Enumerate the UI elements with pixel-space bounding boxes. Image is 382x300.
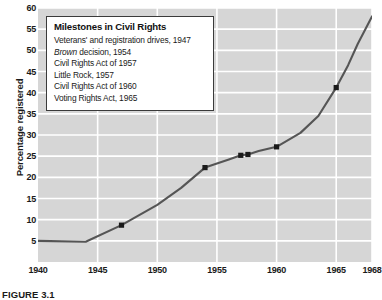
data-point-marker (274, 144, 279, 149)
legend-title: Milestones in Civil Rights (54, 21, 207, 32)
x-axis-tick-label: 1960 (267, 265, 286, 275)
milestones-legend-box: Milestones in Civil Rights Veterans' and… (46, 16, 214, 111)
legend-item: Voting Rights Act, 1965 (54, 93, 207, 105)
legend-item-italic-term: Brown (54, 47, 77, 57)
y-axis-tick-label: 60 (12, 3, 36, 13)
y-axis-tick-label: 35 (12, 109, 36, 119)
y-axis-tick-label: 55 (12, 24, 36, 34)
y-axis-tick-label: 15 (12, 194, 36, 204)
x-axis-tick-label: 1940 (28, 265, 47, 275)
data-point-marker (238, 153, 243, 158)
x-axis-tick-label: 1955 (207, 265, 226, 275)
y-axis-tick-label: 10 (12, 215, 36, 225)
y-axis-tick-label: 30 (12, 130, 36, 140)
x-axis-tick-label: 1968 (362, 265, 381, 275)
legend-item: Veterans' and registration drives, 1947 (54, 35, 207, 47)
y-axis-tick-label: 20 (12, 172, 36, 182)
y-axis-tick-labels: 51015202530354045505560 (12, 0, 36, 300)
x-axis-tick-labels: 1940194519501955196019651968 (0, 265, 382, 279)
legend-item: Civil Rights Act of 1960 (54, 81, 207, 93)
data-point-marker (245, 152, 250, 157)
x-axis-tick-label: 1950 (148, 265, 167, 275)
y-axis-tick-label: 40 (12, 88, 36, 98)
y-axis-tick-label: 25 (12, 151, 36, 161)
legend-item: Little Rock, 1957 (54, 70, 207, 82)
y-axis-tick-label: 5 (12, 236, 36, 246)
data-point-marker (334, 85, 339, 90)
figure-container: Percentage registered 510152025303540455… (0, 0, 382, 300)
x-axis-tick-label: 1945 (88, 265, 107, 275)
legend-item-list: Veterans' and registration drives, 1947B… (54, 35, 207, 105)
y-axis-tick-label: 50 (12, 45, 36, 55)
legend-item: Civil Rights Act of 1957 (54, 58, 207, 70)
data-point-marker (202, 165, 207, 170)
data-point-marker (119, 223, 124, 228)
x-axis-tick-label: 1965 (327, 265, 346, 275)
legend-item: Brown decision, 1954 (54, 47, 207, 59)
figure-caption: FIGURE 3.1 (2, 289, 55, 300)
y-axis-tick-label: 45 (12, 67, 36, 77)
